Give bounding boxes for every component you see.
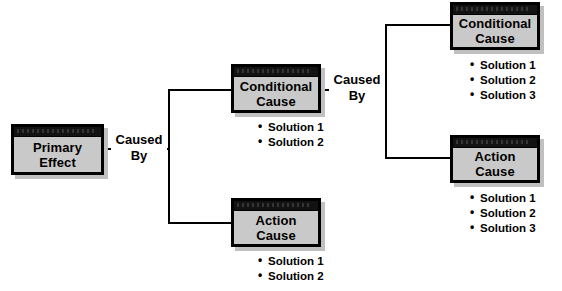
caused-by-word-1: Caused (329, 72, 385, 88)
node-label-line2: Cause (475, 164, 515, 179)
solution-item: Solution 2 (258, 269, 324, 284)
caused-by-label-2: Caused By (329, 72, 385, 104)
node-label-line2: Cause (256, 94, 296, 109)
solution-item: Solution 1 (258, 120, 324, 135)
node-header-bar (14, 127, 101, 137)
node-action-cause-level2[interactable]: Action Cause (231, 198, 321, 247)
node-label: Conditional Cause (453, 15, 537, 48)
node-conditional-cause-level3[interactable]: Conditional Cause (450, 2, 540, 50)
caused-by-word-2: By (329, 88, 385, 104)
solution-item: Solution 1 (258, 254, 324, 269)
solution-item: Solution 2 (470, 206, 536, 221)
connector-trunk1-to-action (168, 222, 233, 224)
solution-item: Solution 3 (470, 221, 536, 236)
solution-item: Solution 2 (258, 135, 324, 150)
node-header-bar (453, 5, 537, 15)
solutions-conditional-cause-level3: Solution 1 Solution 2 Solution 3 (470, 58, 536, 103)
connector-trunk2-to-conditional (385, 24, 452, 26)
diagram-canvas: Caused By Caused By Primary Effect Condi… (0, 0, 562, 291)
node-label: Action Cause (234, 211, 318, 245)
node-label-line2: Cause (256, 228, 296, 243)
connector-trunk1-to-conditional (168, 89, 233, 91)
solution-item: Solution 1 (470, 191, 536, 206)
node-header-bar (234, 67, 318, 77)
connector-trunk-1 (168, 89, 170, 224)
solution-item: Solution 3 (470, 88, 536, 103)
solutions-action-cause-level2: Solution 1 Solution 2 (258, 254, 324, 284)
node-label: Primary Effect (14, 137, 101, 173)
node-label-line2: Effect (39, 155, 76, 170)
node-conditional-cause-level2[interactable]: Conditional Cause (231, 64, 321, 113)
node-label-line1: Action (474, 149, 515, 164)
caused-by-word-2: By (111, 148, 167, 164)
node-primary-effect[interactable]: Primary Effect (11, 124, 104, 175)
solutions-conditional-cause-level2: Solution 1 Solution 2 (258, 120, 324, 150)
solution-item: Solution 2 (470, 73, 536, 88)
node-header-bar (453, 138, 537, 148)
connector-trunk-2 (385, 24, 387, 159)
caused-by-label-1: Caused By (111, 132, 167, 164)
node-label-line2: Cause (475, 31, 515, 46)
connector-trunk2-to-action (385, 157, 452, 159)
node-label-line1: Conditional (459, 16, 532, 31)
node-label: Conditional Cause (234, 77, 318, 111)
solutions-action-cause-level3: Solution 1 Solution 2 Solution 3 (470, 191, 536, 236)
caused-by-word-1: Caused (111, 132, 167, 148)
node-label-line1: Primary (33, 140, 82, 155)
solution-item: Solution 1 (470, 58, 536, 73)
node-label-line1: Conditional (240, 79, 313, 94)
node-action-cause-level3[interactable]: Action Cause (450, 135, 540, 183)
node-header-bar (234, 201, 318, 211)
node-label: Action Cause (453, 148, 537, 181)
node-label-line1: Action (255, 213, 296, 228)
